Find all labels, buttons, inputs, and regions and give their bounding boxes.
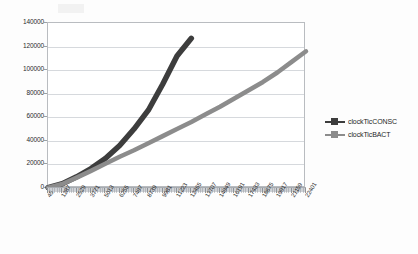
x-tick-mark xyxy=(274,188,275,193)
y-tick-label: 0 xyxy=(0,183,44,190)
x-tick-mark xyxy=(145,188,146,193)
plot-area xyxy=(47,22,305,187)
x-tick-mark xyxy=(243,188,244,193)
x-tick-mark xyxy=(116,188,117,193)
x-tick-mark xyxy=(157,188,158,193)
x-tick-mark xyxy=(260,188,261,193)
x-tick-mark xyxy=(174,188,175,193)
legend-square-swatch xyxy=(331,118,338,125)
x-tick-mark xyxy=(286,188,287,193)
x-tick-mark xyxy=(73,188,74,193)
y-tick-label: 20000 xyxy=(0,159,44,166)
x-tick-mark xyxy=(88,188,89,193)
legend-item-bact[interactable]: clockTicBACT xyxy=(325,128,417,141)
legend-label-bact: clockTicBACT xyxy=(345,131,391,138)
y-tick-label: 60000 xyxy=(0,112,44,119)
legend: clockTicCONSC clockTicBACT xyxy=(325,115,417,141)
series-line-clockticbact xyxy=(48,51,306,187)
x-tick-mark xyxy=(231,188,232,193)
x-tick-mark xyxy=(114,188,115,193)
x-tick-mark xyxy=(303,188,304,193)
chart-container: 140000120000100000800006000040000200000 … xyxy=(0,0,418,254)
legend-marker-bact xyxy=(325,130,345,139)
scan-artifact xyxy=(58,4,84,13)
x-tick-mark xyxy=(202,188,203,193)
series-layer xyxy=(48,23,306,188)
x-tick-mark xyxy=(159,188,160,193)
x-tick-mark xyxy=(188,188,189,193)
x-tick-mark xyxy=(245,188,246,193)
legend-item-consc[interactable]: clockTicCONSC xyxy=(325,115,417,128)
y-tick-label: 100000 xyxy=(0,65,44,72)
x-tick-mark xyxy=(71,188,72,193)
x-tick-mark xyxy=(217,188,218,193)
y-axis: 140000120000100000800006000040000200000 xyxy=(0,0,47,254)
x-tick-mark xyxy=(102,188,103,193)
y-tick-label: 120000 xyxy=(0,42,44,49)
y-tick-label: 40000 xyxy=(0,136,44,143)
y-tick-label: 140000 xyxy=(0,18,44,25)
x-tick-mark xyxy=(57,188,58,193)
x-tick-label: 22401 xyxy=(304,181,318,198)
legend-label-consc: clockTicCONSC xyxy=(345,118,397,125)
x-tick-mark xyxy=(288,188,289,193)
y-tick-label: 80000 xyxy=(0,89,44,96)
legend-square-swatch xyxy=(331,131,338,138)
x-tick-mark xyxy=(200,188,201,193)
legend-marker-consc xyxy=(325,117,345,126)
x-tick-mark xyxy=(59,188,60,193)
series-line-clockticconsc xyxy=(48,38,191,187)
x-tick-mark xyxy=(131,188,132,193)
